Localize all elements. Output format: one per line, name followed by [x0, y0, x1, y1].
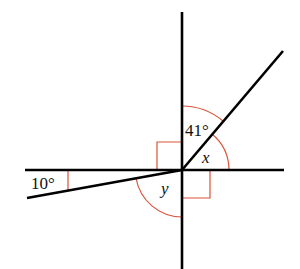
arc-x [212, 134, 229, 170]
label-41-degree: 41° [185, 121, 209, 140]
angle-diagram: 41° x y 10° [0, 0, 300, 269]
diagonal-up-right [182, 51, 283, 170]
arc-41-degree [182, 106, 223, 121]
right-angle-upper-left [157, 142, 182, 170]
label-y: y [159, 179, 169, 198]
label-10-degree: 10° [31, 174, 55, 193]
right-angle-lower-right [182, 170, 210, 198]
arc-y [136, 178, 182, 217]
label-x: x [201, 148, 210, 167]
